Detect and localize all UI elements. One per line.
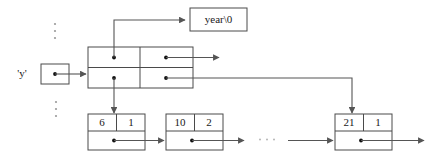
diagram-canvas: year\0 6 1 10 2 xyxy=(0,0,428,157)
node-2-key: 10 xyxy=(175,116,187,128)
two-by-two-pointer-table xyxy=(88,47,193,88)
variable-label: 'y' xyxy=(17,67,26,79)
list-node-3: 21 1 xyxy=(335,114,424,150)
list-node-2: 10 2 xyxy=(166,114,244,150)
node-3-count: 1 xyxy=(375,116,381,128)
y-pointer-cell xyxy=(41,64,86,84)
horizontal-ellipsis-icon xyxy=(259,139,275,141)
list-node-1: 6 1 xyxy=(88,114,164,150)
vertical-ellipsis-top-icon xyxy=(54,23,56,39)
node-3-key: 21 xyxy=(344,116,355,128)
node-2-count: 2 xyxy=(206,116,212,128)
link-to-node-3 xyxy=(166,78,352,113)
string-box-year: year\0 xyxy=(190,8,247,31)
vertical-ellipsis-bottom-icon xyxy=(55,101,57,117)
string-box-label: year\0 xyxy=(205,13,233,25)
node-1-key: 6 xyxy=(99,116,105,128)
node-1-count: 1 xyxy=(128,116,134,128)
pointer-structure-diagram: year\0 6 1 10 2 xyxy=(0,0,428,157)
